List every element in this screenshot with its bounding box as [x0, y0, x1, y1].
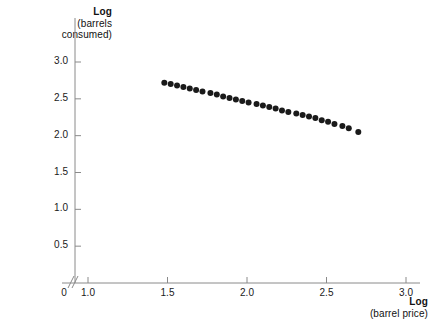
scatter-point — [319, 117, 325, 123]
scatter-point — [180, 84, 186, 90]
x-axis-tick-label: 2.0 — [230, 287, 264, 298]
scatter-point — [214, 91, 220, 97]
scatter-point — [161, 80, 167, 86]
scatter-point — [233, 97, 239, 103]
y-axis-tick-label: 1.5 — [38, 166, 68, 177]
plot-canvas — [0, 0, 434, 326]
y-axis-tick-label: 3.0 — [38, 55, 68, 66]
scatter-point — [207, 90, 213, 96]
x-axis-tick-label: 3.0 — [389, 287, 423, 298]
scatter-point — [220, 94, 226, 100]
y-axis-tick-label: 2.5 — [38, 92, 68, 103]
scatter-point — [355, 129, 361, 135]
scatter-point — [239, 98, 245, 104]
scatter-point — [293, 111, 299, 117]
origin-tick-label: 0 — [58, 287, 70, 298]
scatter-point — [325, 119, 331, 125]
scatter-point — [306, 114, 312, 120]
x-axis-tick-label: 2.5 — [310, 287, 344, 298]
scatter-point — [260, 102, 266, 108]
scatter-point — [339, 123, 345, 129]
scatter-point — [199, 88, 205, 94]
scatter-point — [285, 109, 291, 115]
scatter-point — [193, 87, 199, 93]
scatter-point — [346, 125, 352, 131]
scatter-point — [331, 121, 337, 127]
y-axis-tick-label: 2.0 — [38, 129, 68, 140]
scatter-point — [300, 112, 306, 118]
scatter-point — [227, 95, 233, 101]
x-axis-tick-label: 1.5 — [151, 287, 185, 298]
scatter-point — [187, 86, 193, 92]
scatter-point — [174, 83, 180, 89]
scatter-point — [254, 101, 260, 107]
scatter-series — [161, 80, 361, 135]
x-axis-tick-label: 1.0 — [71, 287, 105, 298]
scatter-point — [266, 104, 272, 110]
y-axis-tick-label: 1.0 — [38, 202, 68, 213]
scatter-point — [273, 105, 279, 111]
scatter-plot-figure: Log (barrels consumed) Log (barrel price… — [0, 0, 434, 326]
scatter-point — [168, 81, 174, 87]
scatter-point — [312, 115, 318, 121]
scatter-point — [246, 100, 252, 106]
y-axis-tick-label: 0.5 — [38, 239, 68, 250]
scatter-point — [279, 108, 285, 114]
